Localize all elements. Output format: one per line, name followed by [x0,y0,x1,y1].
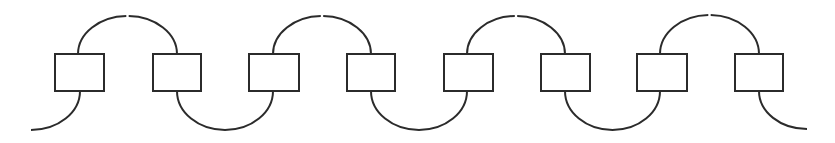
box-2 [153,54,201,91]
box-6 [541,54,590,91]
box-3 [249,54,299,91]
box-8 [735,54,783,91]
box-1 [55,54,104,91]
box-5 [444,54,493,91]
box-7 [637,54,687,91]
serpentine-box-chain-diagram [0,0,835,143]
diagram-background [0,0,835,143]
box-4 [347,54,395,91]
